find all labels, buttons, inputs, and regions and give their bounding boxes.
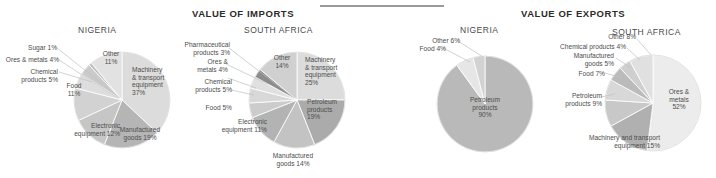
label-sa-imp-ores: Ores & metals 4% (180, 58, 228, 73)
label-ni-imp-sugar: Sugar 1% (14, 44, 57, 52)
label-sa-imp-chemical: Chemical products 5% (176, 78, 232, 93)
label-sa-imp-petroleum: Petroleum products 19% (307, 98, 353, 121)
label-sa-imp-food: Food 5% (190, 104, 232, 112)
label-ni-imp-ores: Ores & metals 4% (0, 56, 59, 64)
leader-line-food-ni-exp (443, 48, 470, 62)
leader-line-other-ni-exp (458, 41, 483, 57)
label-sa-exp-food: Food 7% (565, 70, 605, 78)
label-sa-exp-machinery: Machinery and transport equipment 15% (560, 134, 660, 149)
label-ni-exp-other: Other 6% (420, 37, 460, 45)
infographic-figure: VALUE OF IMPORTS VALUE OF EXPORTS NIGERI… (0, 0, 716, 178)
label-ni-imp-electronic: Electronic equipment 12% (58, 122, 120, 137)
label-sa-exp-ores: Ores & metals 52% (660, 88, 698, 111)
label-sa-imp-pharma: Pharmaceutical products 3% (164, 41, 230, 56)
label-ni-imp-other: Other 11% (94, 50, 128, 65)
label-sa-imp-other: Other 14% (266, 54, 298, 69)
label-sa-exp-manufactured: Manufactured goods 5% (552, 52, 614, 67)
label-sa-imp-machinery: Machinery & transport equipment 25% (305, 56, 357, 86)
label-ni-imp-food: Food 11% (58, 82, 90, 97)
label-ni-imp-chemical: Chemical products 5% (4, 68, 58, 83)
label-sa-exp-other: Other 8% (590, 33, 636, 41)
pie-charts-svg (0, 0, 716, 178)
leader-line-chemical-sa-exp (627, 48, 640, 60)
label-sa-exp-chemical: Chemical products 4% (540, 43, 626, 51)
label-ni-exp-petroleum: Petroleum products 90% (462, 96, 508, 119)
label-sa-imp-electronic: Electronic equipment 11% (205, 118, 267, 133)
label-sa-exp-petroleum: Petroleum products 9% (546, 92, 602, 107)
label-ni-imp-machinery: Machinery & transport equipment 37% (132, 66, 182, 96)
label-ni-exp-food: Food 4% (408, 45, 446, 53)
label-sa-imp-manufactured: Manufactured goods 14% (262, 152, 324, 167)
leader-line-other-sa-exp (637, 39, 651, 55)
